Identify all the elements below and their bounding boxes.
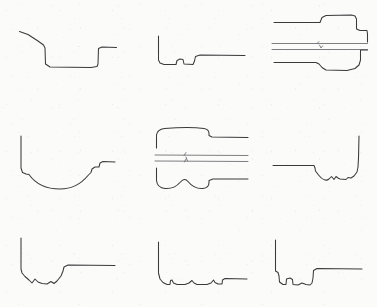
lower-outline-path (157, 168, 249, 189)
outline-path (159, 36, 246, 65)
outline-path (276, 240, 363, 285)
centre-axis-lower-path (155, 161, 248, 162)
figure-root (0, 0, 377, 307)
profile-panel-top-left (18, 26, 118, 70)
profile-drawing-panel-5 (155, 126, 255, 194)
centre-axis-upper-path (155, 155, 248, 156)
profile-panel-bottom-center (155, 240, 255, 290)
profile-drawing-panel-6 (272, 134, 372, 189)
outline-path (21, 238, 115, 284)
profile-panel-top-middle (155, 34, 250, 72)
outline-path (159, 242, 248, 285)
axis-tick-path (184, 153, 188, 163)
profile-drawing-panel-7 (18, 235, 118, 290)
lower-outline-path (274, 50, 368, 71)
profile-panel-middle-left (18, 134, 118, 189)
axis-tick-path (317, 42, 323, 49)
profile-panel-bottom-right (272, 238, 372, 290)
outline-path (21, 136, 115, 189)
upper-outline-path (274, 15, 368, 42)
profile-panel-bottom-left (18, 235, 118, 290)
profile-drawing-panel-1 (18, 26, 118, 70)
profile-panel-middle-right (272, 134, 372, 189)
profile-drawing-panel-9 (272, 238, 372, 290)
upper-outline-path (157, 128, 249, 148)
profile-drawing-panel-4 (18, 134, 118, 189)
profile-panel-top-right (272, 12, 372, 74)
outline-path (20, 32, 117, 68)
profile-panel-middle-center (155, 126, 255, 194)
profile-drawing-panel-3 (272, 12, 372, 74)
profile-drawing-panel-2 (155, 34, 250, 72)
profile-drawing-panel-8 (155, 240, 255, 290)
outline-path (273, 136, 359, 180)
